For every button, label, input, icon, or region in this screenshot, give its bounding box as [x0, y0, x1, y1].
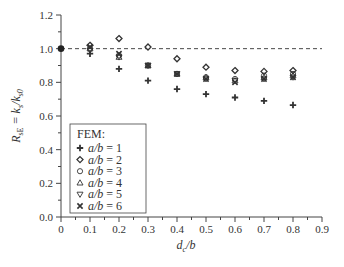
legend: FEM: a/b = 1a/b = 2a/b = 3a/b = 4a/b = 5… [70, 124, 146, 213]
x-axis-label: dc/b [177, 238, 196, 254]
x-tick-label: 0.2 [112, 223, 126, 235]
marker-plus-filled [174, 86, 180, 92]
x-tick-label: 0 [58, 223, 64, 235]
origin-point [58, 45, 65, 52]
marker-plus-filled [261, 98, 267, 104]
x-tick-label: 0.6 [228, 223, 242, 235]
marker-diamond [174, 56, 180, 62]
marker-plus-filled [290, 102, 296, 108]
marker-diamond [232, 68, 238, 74]
y-tick-label: 0.8 [39, 76, 53, 88]
legend-entry: a/b = 6 [88, 199, 122, 213]
chart: 00.10.20.30.40.50.60.70.80.90.00.20.40.6… [0, 0, 344, 267]
x-tick-label: 0.8 [286, 223, 300, 235]
series-a-b-6 [87, 44, 295, 85]
x-tick-label: 0.7 [257, 223, 271, 235]
marker-diamond [116, 36, 122, 42]
marker-plus-filled [116, 66, 122, 72]
series-a-b-3 [87, 46, 295, 81]
y-tick-label: 0.2 [39, 177, 53, 189]
x-tick-label: 0.1 [83, 223, 97, 235]
legend-title: FEM: [77, 127, 105, 141]
y-tick-label: 1.2 [39, 9, 53, 21]
x-tick-label: 0.5 [199, 223, 213, 235]
y-tick-label: 1.0 [39, 43, 53, 55]
y-tick-label: 0.6 [39, 110, 53, 122]
y-axis-label: RsE = ks/ks0 [9, 89, 25, 144]
marker-plus-filled [203, 91, 209, 97]
y-tick-label: 0.4 [39, 144, 53, 156]
x-tick-label: 0.9 [315, 223, 329, 235]
svg-text:dc/b: dc/b [177, 238, 196, 254]
marker-diamond [203, 64, 209, 70]
marker-plus-filled [232, 94, 238, 100]
data-points [58, 36, 297, 109]
svg-text:RsE = ks/ks0: RsE = ks/ks0 [9, 89, 25, 144]
x-tick-label: 0.4 [170, 223, 184, 235]
y-tick-label: 0.0 [39, 211, 53, 223]
x-tick-label: 0.3 [141, 223, 155, 235]
marker-plus-filled [145, 77, 151, 83]
